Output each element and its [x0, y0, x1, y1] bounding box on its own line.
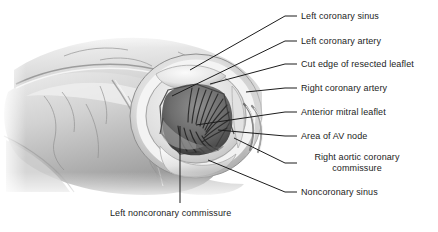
anatomical-figure: Left coronary sinus Left coronary artery…	[0, 0, 438, 232]
aortic-root-group	[130, 54, 263, 178]
label-left-coronary-artery: Left coronary artery	[301, 36, 381, 47]
label-area-of-av-node: Area of AV node	[301, 131, 367, 142]
label-cut-edge-resected-leaflet: Cut edge of resected leaflet	[301, 59, 414, 70]
label-anterior-mitral-leaflet: Anterior mitral leaflet	[301, 107, 386, 118]
label-noncoronary-sinus: Noncoronary sinus	[301, 187, 378, 198]
label-left-coronary-sinus: Left coronary sinus	[301, 11, 379, 22]
label-left-noncoronary-commissure: Left noncoronary commissure	[110, 208, 231, 219]
label-right-aortic-coronary-commissure: Right aortic coronary commissure	[301, 152, 413, 174]
label-line-2: commissure	[332, 163, 382, 173]
label-right-coronary-artery: Right coronary artery	[301, 83, 387, 94]
fade-top	[0, 22, 290, 48]
label-line-1: Right aortic coronary	[314, 152, 399, 162]
